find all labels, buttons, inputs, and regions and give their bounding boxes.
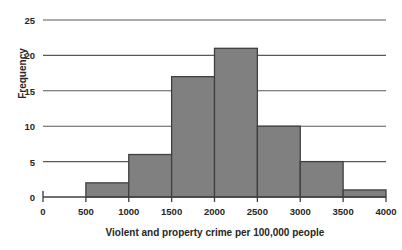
- histogram-chart: 0510152025 05001000150020002500300035004…: [0, 0, 402, 250]
- y-tick-label: 0: [5, 192, 35, 203]
- histogram-bar: [343, 190, 386, 197]
- histogram-bar: [129, 155, 172, 197]
- histogram-bar: [257, 126, 300, 197]
- bars-group: [86, 48, 386, 197]
- histogram-bar: [215, 48, 258, 197]
- y-tick-label: 5: [5, 156, 35, 167]
- x-tick-label: 4000: [356, 206, 402, 217]
- x-axis-title: Violent and property crime per 100,000 p…: [43, 227, 387, 238]
- histogram-bar: [86, 183, 129, 197]
- y-axis-title: Frequency: [17, 19, 28, 129]
- histogram-bar: [172, 77, 215, 197]
- x-tick-marks: [43, 197, 386, 202]
- histogram-bar: [300, 162, 343, 197]
